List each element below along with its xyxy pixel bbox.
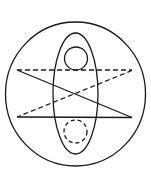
bottom-solid-horizontal-line <box>17 117 132 118</box>
bottom-dashed-circle <box>64 120 87 143</box>
top-small-circle <box>65 47 88 70</box>
diagram-canvas <box>0 0 151 179</box>
geometric-diagram <box>0 0 151 179</box>
